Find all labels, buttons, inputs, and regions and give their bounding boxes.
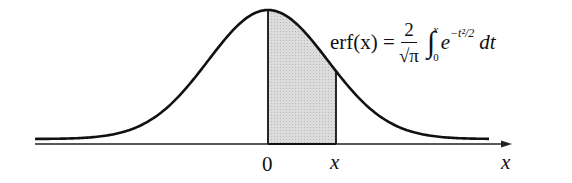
integrand-exponent: −t²/2 bbox=[450, 26, 474, 41]
x-axis-arrow-icon bbox=[501, 141, 512, 148]
origin-label: 0 bbox=[262, 152, 273, 177]
fraction-denominator: √π bbox=[399, 43, 419, 65]
integrand-base: e bbox=[441, 30, 450, 55]
erf-formula: erf(x) = 2 √π ∫ x 0 e−t²/2 dt bbox=[330, 20, 496, 65]
differential: dt bbox=[479, 30, 495, 55]
integral-sign-icon: ∫ bbox=[427, 25, 435, 59]
upper-bound-label: x bbox=[330, 150, 339, 175]
fraction: 2 √π bbox=[399, 20, 419, 65]
axis-name-label: x bbox=[501, 150, 510, 175]
fraction-numerator: 2 bbox=[401, 20, 417, 43]
formula-lhs: erf(x) = bbox=[330, 30, 395, 55]
